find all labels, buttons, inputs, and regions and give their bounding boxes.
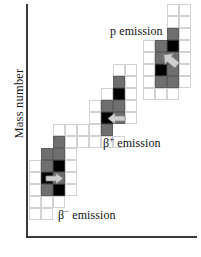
nuclide-cell-gray bbox=[41, 184, 53, 196]
nuclide-cell-dark bbox=[167, 40, 179, 52]
nuclide-cell-empty bbox=[89, 112, 101, 124]
nuclide-cell-empty bbox=[179, 40, 191, 52]
nuclide-cell-dark bbox=[53, 160, 65, 172]
nuclide-cell-empty bbox=[29, 196, 41, 208]
nuclide-cell-empty bbox=[29, 172, 41, 184]
nuclide-cell-empty bbox=[179, 52, 191, 64]
nuclide-cell-dark bbox=[113, 88, 125, 100]
nuclide-cell-empty bbox=[65, 160, 77, 172]
nuclide-cell-empty bbox=[65, 124, 77, 136]
nuclide-cell-empty bbox=[41, 208, 53, 220]
nuclide-cell-empty bbox=[125, 64, 137, 76]
nuclide-cell-empty bbox=[125, 88, 137, 100]
nuclide-cell-gray bbox=[41, 148, 53, 160]
nuclide-cell-empty bbox=[101, 88, 113, 100]
nuclide-cell-empty bbox=[77, 124, 89, 136]
nuclide-cell-gray bbox=[113, 76, 125, 88]
nuclide-cell-empty bbox=[167, 16, 179, 28]
nuclide-cell-empty bbox=[41, 196, 53, 208]
decay-arrow-proton bbox=[161, 52, 180, 65]
nuclide-cell-empty bbox=[113, 64, 125, 76]
nuclide-cell-empty bbox=[53, 124, 65, 136]
nuclide-cell-empty bbox=[143, 64, 155, 76]
nuclide-cell-empty bbox=[179, 4, 191, 16]
nuclide-cell-gray bbox=[53, 148, 65, 160]
nuclide-cell-empty bbox=[179, 16, 191, 28]
nuclide-cell-dark bbox=[53, 184, 65, 196]
nuclide-cell-empty bbox=[89, 136, 101, 148]
nuclide-cell-empty bbox=[143, 40, 155, 52]
nuclide-cell-empty bbox=[179, 28, 191, 40]
decay-arrow-beta-plus bbox=[107, 112, 126, 125]
nuclide-cell-empty bbox=[155, 88, 167, 100]
nuclide-cell-empty bbox=[65, 136, 77, 148]
nuclide-cell-gray bbox=[101, 100, 113, 112]
nuclide-cell-gray bbox=[167, 28, 179, 40]
nuclide-cell-gray bbox=[155, 76, 167, 88]
nuclide-cell-empty bbox=[65, 184, 77, 196]
decay-arrow-beta-minus bbox=[45, 172, 64, 185]
nuclide-cell-gray bbox=[41, 160, 53, 172]
grid-plane: β− emissionβ+ emissionp emission bbox=[0, 0, 201, 257]
nuclide-cell-empty bbox=[89, 124, 101, 136]
nuclide-cell-empty bbox=[65, 148, 77, 160]
nuclide-cell-gray bbox=[113, 100, 125, 112]
nuclide-cell-empty bbox=[143, 76, 155, 88]
nuclide-cell-empty bbox=[143, 88, 155, 100]
emission-label-proton: p emission bbox=[110, 24, 163, 39]
nuclide-cell-empty bbox=[143, 52, 155, 64]
emission-label-beta-minus: β− emission bbox=[58, 208, 116, 223]
nuclide-decay-chart: Mass number Atomic number β− emissionβ+ … bbox=[0, 0, 201, 257]
nuclide-cell-empty bbox=[179, 64, 191, 76]
nuclide-cell-empty bbox=[89, 100, 101, 112]
nuclide-cell-gray bbox=[167, 76, 179, 88]
nuclide-cell-gray bbox=[53, 136, 65, 148]
nuclide-cell-empty bbox=[125, 100, 137, 112]
nuclide-cell-empty bbox=[77, 136, 89, 148]
nuclide-cell-empty bbox=[65, 172, 77, 184]
nuclide-cell-empty bbox=[167, 88, 179, 100]
nuclide-cell-empty bbox=[179, 76, 191, 88]
nuclide-cell-empty bbox=[125, 76, 137, 88]
nuclide-cell-empty bbox=[29, 208, 41, 220]
nuclide-cell-gray bbox=[155, 40, 167, 52]
emission-label-beta-plus: β+ emission bbox=[103, 136, 161, 151]
nuclide-cell-empty bbox=[125, 112, 137, 124]
nuclide-cell-empty bbox=[29, 160, 41, 172]
nuclide-cell-empty bbox=[167, 4, 179, 16]
nuclide-cell-empty bbox=[29, 184, 41, 196]
